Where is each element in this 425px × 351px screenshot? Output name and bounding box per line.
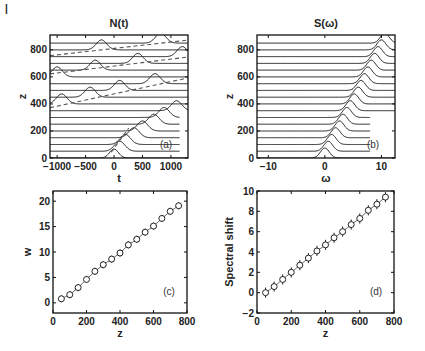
data-point xyxy=(271,284,277,290)
trace-line xyxy=(50,94,188,104)
spectrum-trace xyxy=(257,60,395,70)
data-point xyxy=(348,222,354,228)
trace-line xyxy=(50,108,180,118)
trace-line xyxy=(50,40,188,50)
y-tick-label: 15 xyxy=(39,221,51,232)
data-point xyxy=(142,229,148,235)
x-tick-label: 10 xyxy=(376,161,388,172)
spectrum-trace xyxy=(257,74,395,84)
spectrum-trace xyxy=(257,128,370,138)
data-point xyxy=(117,250,123,256)
spectrum-trace xyxy=(257,108,370,118)
data-point xyxy=(92,268,98,274)
data-point xyxy=(134,236,140,242)
y-tick-label: 0 xyxy=(248,153,254,164)
data-point xyxy=(280,276,286,282)
data-point xyxy=(314,248,320,254)
x-axis-label: ω xyxy=(321,172,330,184)
spectrum-trace xyxy=(257,40,395,50)
panel-label: (a) xyxy=(160,139,172,150)
y-axis-label: z xyxy=(223,93,235,99)
x-tick-label: 800 xyxy=(386,316,403,327)
data-point xyxy=(340,229,346,235)
y-tick-label: 10 xyxy=(39,247,51,258)
spectrum-trace xyxy=(257,114,370,124)
spectrum-trace xyxy=(257,94,395,104)
spectrum-trace xyxy=(257,121,370,131)
x-tick-label: −10 xyxy=(260,161,277,172)
trace-line xyxy=(50,114,180,124)
panel-label: (d) xyxy=(370,286,382,297)
data-point xyxy=(109,256,115,262)
x-axis-label: z xyxy=(117,327,123,339)
trace-line xyxy=(50,67,188,77)
data-point xyxy=(357,215,363,221)
panel-title: N(t) xyxy=(110,17,129,29)
panel-b-spectral-waterfall: −100100200400600800ωzS(ω)(b) xyxy=(223,17,395,184)
x-tick-label: 200 xyxy=(78,316,95,327)
trace-line xyxy=(50,121,180,131)
spectrum-trace xyxy=(257,101,395,111)
panel-c-w-vs-z-plot: 020040060080005101520zw(c) xyxy=(21,191,196,339)
trajectory-dashed-line xyxy=(50,57,188,74)
y-tick-label: 4 xyxy=(248,247,254,258)
trace-line xyxy=(50,128,180,138)
y-tick-label: 0 xyxy=(44,297,50,308)
y-axis-label: w xyxy=(21,247,33,257)
data-point xyxy=(67,292,73,298)
data-point xyxy=(263,290,269,296)
data-point xyxy=(297,262,303,268)
spectrum-trace xyxy=(257,141,370,151)
y-tick-label: −2 xyxy=(243,308,255,319)
data-point xyxy=(167,208,173,214)
y-tick-label: 10 xyxy=(243,186,255,197)
x-tick-label: 600 xyxy=(145,316,162,327)
spectrum-trace xyxy=(257,67,395,77)
y-tick-label: 200 xyxy=(237,125,254,136)
panel-label: (c) xyxy=(163,286,175,297)
y-tick-label: 800 xyxy=(237,44,254,55)
y-tick-label: 800 xyxy=(30,44,47,55)
data-point xyxy=(288,269,294,275)
data-point xyxy=(84,276,90,282)
data-point xyxy=(382,194,388,200)
y-tick-label: 600 xyxy=(237,71,254,82)
panel-a-temporal-waterfall: −1000−500050010000200400600800tzN(t)(a) xyxy=(16,17,188,184)
x-axis-label: z xyxy=(323,327,329,339)
spectrum-trace xyxy=(257,87,395,97)
data-point xyxy=(374,201,380,207)
x-tick-label: 0 xyxy=(322,161,328,172)
x-axis-label: t xyxy=(117,172,121,184)
x-tick-label: 400 xyxy=(317,316,334,327)
corner-mark: | xyxy=(5,3,8,14)
figure: | −1000−500050010000200400600800tzN(t)(a… xyxy=(0,0,425,351)
data-point xyxy=(151,223,157,229)
y-tick-label: 5 xyxy=(44,272,50,283)
y-axis-label: z xyxy=(16,93,28,99)
spectrum-trace xyxy=(257,47,395,57)
data-point xyxy=(58,296,64,302)
data-point xyxy=(159,215,165,221)
spectrum-trace xyxy=(257,80,395,90)
y-tick-label: 0 xyxy=(41,153,47,164)
panel-label: (b) xyxy=(367,139,379,150)
x-tick-label: 500 xyxy=(134,161,151,172)
trace-line xyxy=(50,87,188,97)
spectrum-trace xyxy=(257,135,370,145)
x-tick-label: 200 xyxy=(283,316,300,327)
data-point xyxy=(125,242,131,248)
y-tick-label: 0 xyxy=(248,287,254,298)
trace-line xyxy=(50,53,188,63)
y-tick-label: 20 xyxy=(39,196,51,207)
data-point xyxy=(365,207,371,213)
x-tick-label: 1000 xyxy=(160,161,183,172)
trace-line xyxy=(50,60,188,70)
data-point xyxy=(305,255,311,261)
y-tick-label: 400 xyxy=(237,98,254,109)
panel-d-spectral-shift-plot: 0200400600800−20246810zSpectral shift(d) xyxy=(223,186,403,340)
data-point xyxy=(176,203,182,209)
x-tick-label: 400 xyxy=(112,316,129,327)
y-tick-label: 8 xyxy=(248,206,254,217)
panel-title: S(ω) xyxy=(314,17,338,29)
x-tick-label: −1000 xyxy=(43,161,72,172)
